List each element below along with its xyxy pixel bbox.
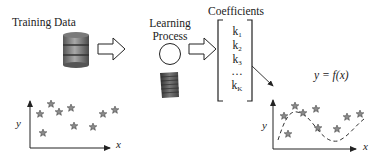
server-icon [160, 72, 179, 98]
matrix-bracket-right [247, 20, 252, 101]
hollow-arrow-icon [98, 38, 125, 60]
diagonal-arrow-icon [252, 66, 273, 86]
function-equation: y = f(x) [314, 69, 349, 81]
matrix-bracket-left [218, 20, 223, 101]
input-scatter-plot [30, 100, 119, 148]
hollow-arrow-icon [189, 38, 216, 60]
input-plot-y-label: y [16, 117, 21, 129]
database-icon [63, 32, 89, 68]
output-fitted-plot [273, 100, 364, 149]
output-plot-x-label: x [363, 140, 368, 152]
input-plot-x-label: x [116, 138, 121, 150]
learning-process-circle-icon [160, 44, 181, 65]
output-plot-y-label: y [262, 119, 267, 131]
